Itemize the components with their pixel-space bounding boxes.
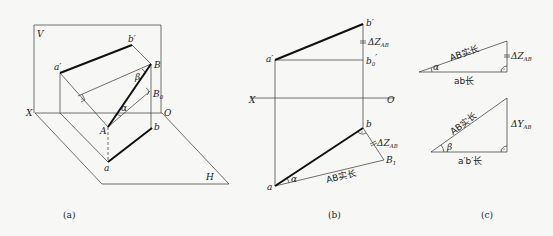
label-b0-prime: b0′ [366,53,377,67]
h-plane [35,113,229,184]
label-base-1: ab长 [454,75,474,86]
right-angle-dot-2 [503,148,504,149]
label-beta: β [446,142,452,152]
caption-c: (c) [481,210,493,220]
label-b-prime: b′ [128,34,136,44]
label-b-prime: b′ [366,18,374,28]
label-O: O [387,95,395,105]
projector-a-prime-A [60,73,108,127]
right-angle-dot-1 [503,68,504,69]
label-alpha: α [121,103,127,113]
caption-b: (b) [328,210,341,220]
label-X: X [25,108,33,118]
caption-a: (a) [63,210,75,220]
label-hypotenuse-1: AB实长 [448,43,480,63]
label-a-prime: a′ [54,62,61,72]
label-a: a [104,163,109,173]
label-b: b [366,119,372,129]
label-b: b [154,122,160,132]
right-angle-dot-b [361,131,362,132]
label-alpha: α [291,174,297,184]
right-angle-dot [81,98,82,99]
label-V: V [37,29,45,39]
label-X: X [248,95,256,105]
line-a-prime-b-prime [60,45,132,73]
label-A: A [99,126,107,136]
line-a-prime-b-prime [275,24,363,60]
projector-ax-a [60,113,108,162]
label-dz: ΔZAB [510,51,532,62]
label-B1: B1 [385,155,396,166]
label-dy: ΔYAB [510,119,531,130]
projection-diagram: V H X O a′ b′ B A b a B0 α β (a) [0,0,553,236]
label-H: H [205,172,214,182]
label-hypotenuse-2: AB实长 [448,110,479,137]
label-a: a [267,182,272,192]
panel-b: a′ b′ b0′ ΔZAB X O b ΔZAB B1 a α AB实长 (b… [248,18,398,220]
label-O: O [164,108,172,118]
beta-arc-c [441,145,444,152]
label-base-2: a′b′长 [458,155,482,166]
label-dz-top: ΔZAB [367,37,389,48]
label-dz-bottom: ΔZAB [376,138,398,149]
label-B0: B0 [152,89,164,100]
panel-a: V H X O a′ b′ B A b a B0 α β (a) [25,25,229,220]
panel-c: α AB实长 ΔZAB ab长 β AB实长 ΔYAB a′b′长 (c) [419,41,532,220]
line-ab [108,128,152,162]
label-a-prime: a′ [266,54,273,64]
projector-b-prime-B [132,45,151,64]
label-B: B [153,60,161,70]
alpha-arc-c [431,68,432,72]
label-alpha: α [433,62,439,72]
label-beta: β [134,72,140,82]
